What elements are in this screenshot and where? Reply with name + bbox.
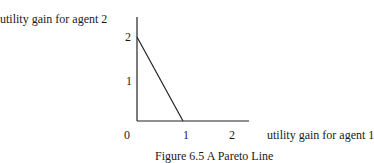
x-tick-1: 1	[183, 129, 189, 141]
figure-caption: Figure 6.5 A Pareto Line	[155, 150, 273, 162]
pareto-line	[137, 37, 183, 121]
x-tick-2: 2	[229, 129, 235, 141]
y-tick-1: 1	[126, 75, 132, 87]
y-tick-2: 2	[125, 31, 131, 43]
x-tick-0: 0	[124, 129, 130, 141]
x-axis-label: utility gain for agent 1	[267, 129, 374, 141]
